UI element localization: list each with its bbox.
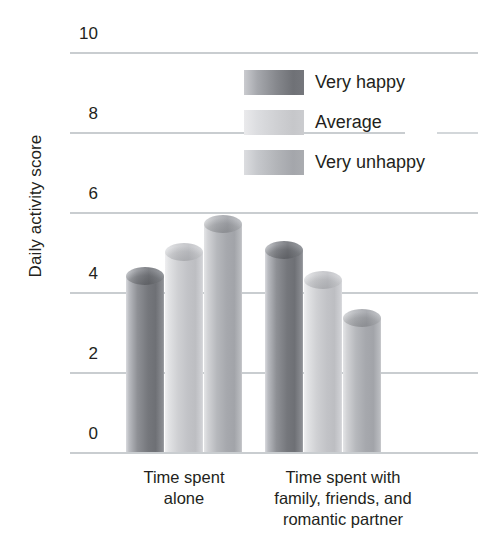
y-tick-2: 2 — [64, 344, 98, 364]
bar-cap-shading — [126, 267, 164, 285]
category-label-social: Time spent with family, friends, and rom… — [243, 467, 443, 530]
y-tick-10: 10 — [64, 24, 98, 44]
legend-label-very-happy: Very happy — [315, 72, 405, 93]
legend-swatch-average — [244, 110, 304, 135]
y-tick-0: 0 — [64, 424, 98, 444]
bar-body — [204, 224, 242, 452]
y-tick-4: 4 — [64, 264, 98, 284]
bar-very-happy-social — [265, 241, 303, 452]
legend-label-average: Average — [315, 112, 382, 133]
legend-label-very-unhappy: Very unhappy — [315, 152, 425, 173]
bar-body — [304, 280, 342, 452]
bar-average-alone — [165, 243, 203, 452]
bar-average-social — [304, 271, 342, 452]
legend-item-average: Average — [244, 110, 382, 135]
category-label-social-line3: romantic partner — [243, 509, 443, 530]
bar-body — [265, 250, 303, 452]
category-label-alone-line2: alone — [104, 488, 264, 509]
category-label-social-line1: Time spent with — [243, 467, 443, 488]
bar-cap-shading — [343, 309, 381, 327]
legend-swatch-very-happy — [244, 70, 304, 95]
bar-chart: Daily activity score 10 8 6 4 2 0 — [0, 0, 496, 556]
category-label-alone: Time spent alone — [104, 467, 264, 509]
category-label-social-line2: family, friends, and — [243, 488, 443, 509]
bar-body — [126, 276, 164, 452]
gridline-8-right — [437, 132, 478, 134]
category-label-alone-line1: Time spent — [104, 467, 264, 488]
bar-body — [343, 318, 381, 452]
y-axis-title: Daily activity score — [26, 96, 46, 316]
bar-cap-shading — [165, 243, 203, 261]
legend-item-very-happy: Very happy — [244, 70, 405, 95]
bar-very-happy-alone — [126, 267, 164, 452]
gridline-6 — [70, 212, 478, 214]
bar-very-unhappy-alone — [204, 215, 242, 452]
legend-item-very-unhappy: Very unhappy — [244, 150, 425, 175]
gridline-10 — [70, 52, 478, 54]
legend-swatch-very-unhappy — [244, 150, 304, 175]
bar-cap-shading — [304, 271, 342, 289]
bar-cap-shading — [204, 215, 242, 233]
y-tick-6: 6 — [64, 184, 98, 204]
y-tick-8: 8 — [64, 104, 98, 124]
bar-very-unhappy-social — [343, 309, 381, 452]
gridline-0-baseline — [70, 452, 478, 454]
bar-body — [165, 252, 203, 452]
bar-cap-shading — [265, 241, 303, 259]
